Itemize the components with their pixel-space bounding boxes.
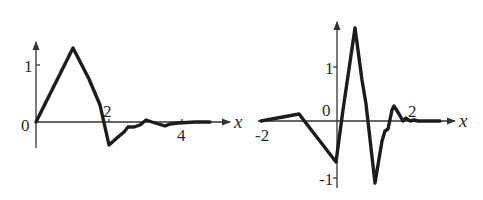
figure: 1 0 2 4 x 1 0 -1 -2 2 x [0,0,483,200]
left-x-axis-label: x [233,111,243,132]
left-plot: 1 0 2 4 x [21,42,243,148]
right-y-tick-label-1: 1 [325,59,334,78]
left-y-tick-label-1: 1 [24,57,33,76]
right-y-tick-label-neg1: -1 [319,170,333,189]
left-origin-label: 0 [21,116,30,135]
right-x-axis-label: x [458,110,468,131]
right-x-tick-label-neg2: -2 [255,126,269,145]
left-x-tick-label-4: 4 [177,126,186,145]
right-origin-label: 0 [322,101,331,120]
right-plot: 1 0 -1 -2 2 x [255,22,468,189]
right-x-tick-label-2: 2 [408,102,417,121]
